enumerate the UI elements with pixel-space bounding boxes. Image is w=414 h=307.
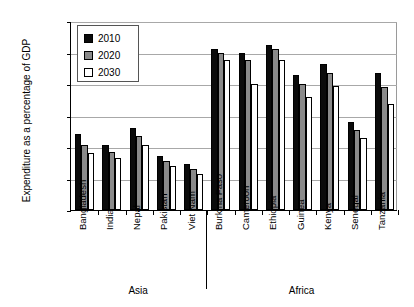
gridline [71,22,397,23]
legend-swatch-2020 [84,51,93,60]
x-tick-mark [207,210,208,215]
legend-swatch-2030 [84,68,93,77]
y-tick-mark [67,148,71,149]
category-label: India [104,209,115,230]
category-label: Nepal [131,205,142,230]
bar [224,60,230,210]
y-tick-mark [67,180,71,181]
category-label: Burkina Faso [213,174,224,230]
x-tick-mark [262,210,263,215]
bar [388,104,394,210]
bar [88,153,94,210]
x-tick-mark [235,210,236,215]
y-tick-mark [67,85,71,86]
x-tick-mark [98,210,99,215]
bar [142,145,148,210]
x-tick-mark [180,210,181,215]
group-label: Asia [70,285,206,296]
category-label: Ethiopia [267,196,278,230]
x-tick-mark [344,210,345,215]
x-tick-mark [371,210,372,215]
bar [306,97,312,210]
bar [360,138,366,210]
y-tick-mark [67,22,71,23]
y-axis-title: Expenditure as a percentage of GDP [21,21,32,221]
y-tick-mark [67,54,71,55]
gridline [71,117,397,118]
category-label: Guinea [295,199,306,230]
legend-item: 2030 [84,64,138,81]
legend: 2010 2020 2030 [77,25,139,82]
x-tick-mark [398,210,399,215]
category-label: Bangladesh [77,180,88,230]
legend-swatch-2010 [84,34,93,43]
y-tick-mark [67,117,71,118]
legend-label-2020: 2020 [98,51,120,61]
category-label: Tanzania [376,192,387,230]
bar [251,84,257,210]
group-separator [206,211,207,289]
legend-label-2030: 2030 [98,68,120,78]
gridline [71,85,397,86]
y-tick-mark [67,211,71,212]
x-tick-mark [153,210,154,215]
category-label: Kenya [322,203,333,230]
bar [279,60,285,210]
category-label: Pakistan [158,194,169,230]
category-label: Viet Nam [186,191,197,230]
category-label: Senegal [349,195,360,230]
bar [170,166,176,210]
group-label: Africa [206,285,397,296]
legend-item: 2020 [84,47,138,64]
x-tick-mark [316,210,317,215]
x-tick-mark [126,210,127,215]
bar [197,174,203,210]
bar-chart: Expenditure as a percentage of GDP 0.0%0… [0,0,414,307]
bar [115,158,121,210]
category-label: Cameroon [240,186,251,230]
legend-label-2010: 2010 [98,34,120,44]
legend-item: 2010 [84,30,138,47]
x-tick-mark [289,210,290,215]
bar [333,86,339,210]
